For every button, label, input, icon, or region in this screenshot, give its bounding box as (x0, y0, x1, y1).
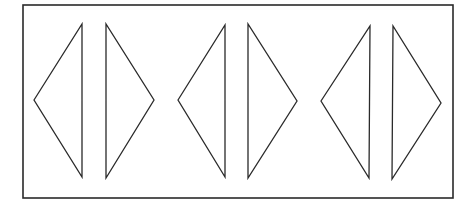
triangle-left-1 (34, 24, 82, 177)
triangle-left-3 (178, 25, 225, 177)
frame-border (23, 5, 453, 198)
triangle-right-6 (392, 26, 441, 179)
triangles-diagram (0, 0, 475, 206)
triangle-left-5 (321, 26, 370, 178)
triangle-right-4 (248, 24, 297, 178)
triangle-right-2 (106, 24, 154, 178)
